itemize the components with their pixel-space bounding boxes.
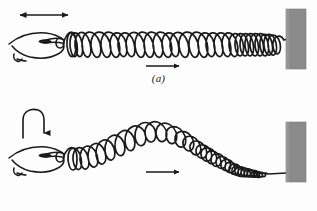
panel-transverse-wave: (b) [0, 100, 317, 211]
panel-a-drawing [0, 0, 317, 105]
hand-gripping-spring [9, 147, 64, 176]
panel-a-label: (a) [0, 72, 317, 84]
curved-down-arrow [23, 109, 44, 138]
wall-block [286, 9, 306, 69]
panel-b-drawing [0, 100, 317, 211]
transverse-spring [63, 122, 287, 178]
longitudinal-spring [63, 32, 287, 57]
panel-longitudinal-wave: (a) [0, 0, 317, 105]
wall-block [286, 122, 306, 182]
wave-figure: (a) [0, 0, 317, 211]
hand-gripping-spring [9, 33, 64, 62]
